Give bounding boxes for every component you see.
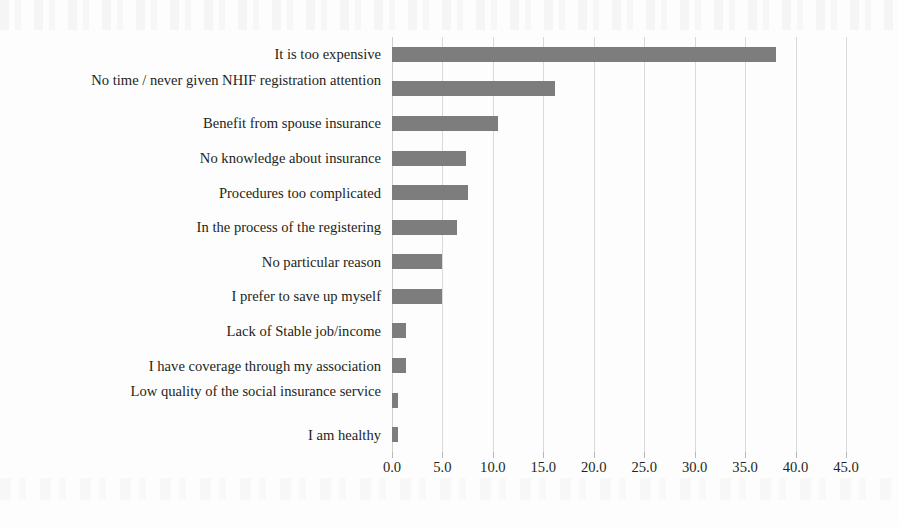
bar (392, 220, 457, 235)
gridline-40.0 (796, 37, 797, 452)
bar (392, 427, 398, 442)
plot-area (392, 37, 847, 452)
tick-0.0 (392, 452, 393, 458)
bar (392, 81, 555, 96)
bar (392, 151, 466, 166)
category-label: No knowledge about insurance (6, 149, 385, 167)
category-label: I have coverage through my association (6, 357, 385, 375)
bar (392, 47, 776, 62)
category-label: No particular reason (6, 253, 385, 271)
chart-page: It is too expensiveNo time / never given… (0, 0, 899, 527)
category-label: It is too expensive (6, 45, 385, 63)
tick-15.0 (543, 452, 544, 458)
gridline-30.0 (695, 37, 696, 452)
gridline-20.0 (594, 37, 595, 452)
tick-40.0 (796, 452, 797, 458)
gridline-0.0 (392, 37, 393, 452)
tick-5.0 (442, 452, 443, 458)
x-axis-tick-labels: 0.05.010.015.020.025.030.035.040.045.0 (0, 459, 899, 483)
x-tick-label: 45.0 (816, 459, 876, 476)
tick-45.0 (846, 452, 847, 458)
bar (392, 185, 468, 200)
gridline-35.0 (745, 37, 746, 452)
category-label: I prefer to save up myself (6, 287, 385, 305)
x-axis-tickmarks (392, 452, 847, 459)
tick-20.0 (594, 452, 595, 458)
bar (392, 323, 406, 338)
gridline-15.0 (543, 37, 544, 452)
gridline-10.0 (493, 37, 494, 452)
horizontal-bar-chart: It is too expensiveNo time / never given… (0, 0, 899, 527)
bar (392, 289, 442, 304)
bar (392, 393, 398, 408)
tick-25.0 (644, 452, 645, 458)
tick-10.0 (493, 452, 494, 458)
bar (392, 116, 498, 131)
bar (392, 358, 406, 373)
bar (392, 254, 442, 269)
category-label: I am healthy (6, 426, 385, 444)
tick-35.0 (745, 452, 746, 458)
tick-30.0 (695, 452, 696, 458)
gridline-45.0 (846, 37, 847, 452)
category-label: No time / never given NHIF registration … (6, 71, 385, 89)
category-label: In the process of the registering (6, 218, 385, 236)
category-axis-labels: It is too expensiveNo time / never given… (6, 37, 385, 452)
category-label: Low quality of the social insurance serv… (6, 382, 385, 400)
gridline-5.0 (442, 37, 443, 452)
category-label: Benefit from spouse insurance (6, 114, 385, 132)
category-label: Procedures too complicated (6, 184, 385, 202)
gridline-25.0 (644, 37, 645, 452)
category-label: Lack of Stable job/income (6, 322, 385, 340)
